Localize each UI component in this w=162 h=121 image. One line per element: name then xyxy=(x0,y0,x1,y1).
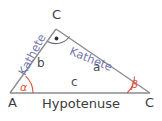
vertex-c-top-label: C xyxy=(52,8,61,21)
right-angle-arc-icon xyxy=(48,37,70,44)
angle-beta-label: β xyxy=(131,79,138,90)
vertex-c-right-label: C xyxy=(145,96,154,109)
angle-alpha-label: α xyxy=(20,82,27,93)
side-c-label: c xyxy=(71,76,78,88)
right-angle-dot-icon xyxy=(55,37,59,41)
side-b-label: b xyxy=(37,57,45,69)
hypotenuse-label: Hypotenuse xyxy=(42,97,120,110)
vertex-a-label: A xyxy=(8,96,17,109)
triangle-diagram-canvas: A C C b a c Kathete Kathete Hypotenuse α… xyxy=(0,0,162,121)
